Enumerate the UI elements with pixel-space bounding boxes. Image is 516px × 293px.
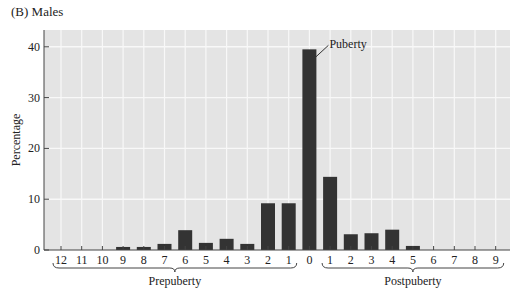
bar — [282, 203, 296, 250]
x-tick-label: 7 — [162, 253, 168, 267]
x-tick-label: 2 — [265, 253, 271, 267]
x-tick-label: 7 — [451, 253, 457, 267]
x-tick-label: 8 — [141, 253, 147, 267]
x-tick-label: 9 — [120, 253, 126, 267]
x-tick-label: 9 — [493, 253, 499, 267]
x-tick-label: 2 — [348, 253, 354, 267]
x-tick-label: 3 — [369, 253, 375, 267]
annotation-label: Puberty — [329, 37, 366, 51]
y-tick-label: 10 — [28, 192, 40, 206]
x-tick-label: 4 — [389, 253, 395, 267]
y-axis-label: Percentage — [9, 114, 23, 167]
group-brace — [53, 263, 297, 272]
x-tick-label: 5 — [203, 253, 209, 267]
bar — [323, 177, 337, 250]
x-tick-label: 3 — [244, 253, 250, 267]
x-tick-label: 1 — [286, 253, 292, 267]
bar — [261, 203, 275, 250]
group-label: Postpuberty — [384, 274, 441, 288]
bar-chart: 010203040Percentage121110987654321012345… — [0, 0, 516, 293]
x-tick-label: 6 — [431, 253, 437, 267]
x-tick-label: 10 — [96, 253, 108, 267]
x-tick-label: 4 — [224, 253, 230, 267]
x-tick-label: 8 — [472, 253, 478, 267]
x-tick-label: 6 — [182, 253, 188, 267]
y-tick-label: 30 — [28, 91, 40, 105]
x-tick-label: 11 — [76, 253, 88, 267]
group-label: Prepuberty — [149, 274, 202, 288]
x-tick-label: 0 — [306, 253, 312, 267]
x-tick-label: 1 — [327, 253, 333, 267]
y-tick-label: 20 — [28, 141, 40, 155]
y-tick-label: 40 — [28, 40, 40, 54]
x-tick-label: 12 — [55, 253, 67, 267]
y-tick-label: 0 — [34, 243, 40, 257]
plot-area — [44, 30, 510, 250]
bar — [302, 49, 316, 250]
x-tick-label: 5 — [410, 253, 416, 267]
